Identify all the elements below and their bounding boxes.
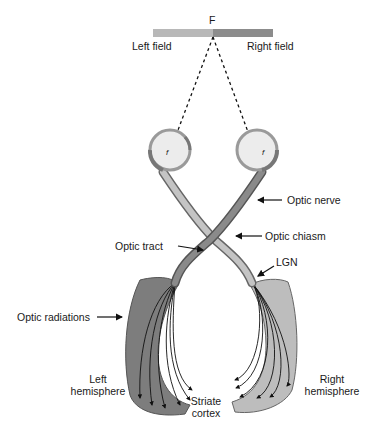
left-hemisphere-line2: hemisphere [66,385,130,397]
left-fovea-label: f [166,147,168,159]
left-field-label: Left field [132,40,172,52]
optic-pathways [163,172,262,283]
optic-chiasm-label: Optic chiasm [265,230,326,242]
striate-line1: Striate [182,395,230,407]
striate-cortex-label: Striate cortex [182,395,230,419]
right-hemisphere-line1: Right [300,373,364,385]
optic-nerve-label: Optic nerve [287,194,341,206]
left-hemisphere-line1: Left [66,373,130,385]
right-hemisphere-label: Right hemisphere [300,373,364,397]
optic-radiations-label: Optic radiations [17,311,90,323]
right-fovea-label: f [262,147,264,159]
visual-field-bar [153,29,273,37]
fixation-label: F [209,14,215,26]
visual-pathway-diagram [0,0,366,424]
lgn-label: LGN [276,256,298,268]
left-hemisphere-label: Left hemisphere [66,373,130,397]
right-field-label: Right field [247,40,294,52]
optic-tract-label: Optic tract [115,240,163,252]
striate-line2: cortex [182,407,230,419]
right-hemisphere-line2: hemisphere [300,385,364,397]
right-hemisphere-radiations [232,279,297,412]
right-eye [237,130,277,170]
left-eye [150,130,190,170]
